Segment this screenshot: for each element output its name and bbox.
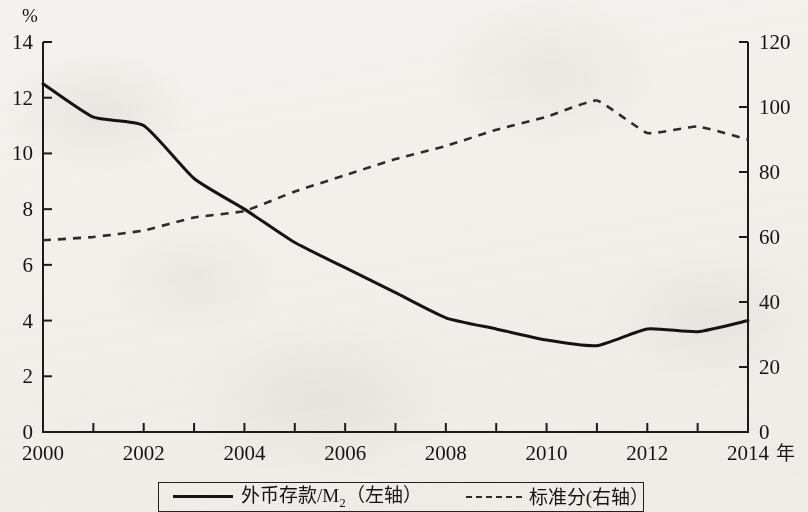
y-right-tick-label-100: 100 <box>759 95 791 119</box>
x-tick-label-2000: 2000 <box>22 441 64 465</box>
legend-entry-foreign-currency-deposits: 外币存款/M2（左轴） <box>173 486 422 509</box>
y-right-tick-label-80: 80 <box>759 160 780 184</box>
y-left-axis-unit-label: % <box>22 5 38 26</box>
y-left-tick-label-2: 2 <box>23 364 34 388</box>
x-tick-label-2012: 2012 <box>626 441 668 465</box>
chart-legend: 外币存款/M2（左轴） 标准分(右轴） <box>158 482 644 512</box>
y-right-tick-label-120: 120 <box>759 30 791 54</box>
axis-frame <box>43 42 748 432</box>
y-left-tick-label-6: 6 <box>23 253 34 277</box>
dual-axis-line-chart: 0246810121402040608010012020002002200420… <box>0 0 808 512</box>
y-left-tick-label-8: 8 <box>23 197 34 221</box>
y-right-tick-label-40: 40 <box>759 290 780 314</box>
legend-entry-standard-score: 标准分(右轴） <box>466 488 649 507</box>
y-left-tick-label-10: 10 <box>12 141 33 165</box>
x-tick-label-2006: 2006 <box>324 441 366 465</box>
legend-label-foreign-currency-deposits: 外币存款/M2（左轴） <box>241 486 422 509</box>
y-right-tick-label-20: 20 <box>759 355 780 379</box>
x-tick-label-2008: 2008 <box>425 441 467 465</box>
solid-line-swatch-icon <box>173 495 233 498</box>
legend-label-tail-1: （左轴） <box>346 485 422 506</box>
dashed-line-swatch-icon <box>466 496 522 498</box>
x-tick-label-2004: 2004 <box>223 441 266 465</box>
y-right-tick-label-60: 60 <box>759 225 780 249</box>
series-line-standard-score <box>43 100 748 240</box>
y-left-tick-label-4: 4 <box>23 309 34 333</box>
chart-canvas: 0246810121402040608010012020002002200420… <box>0 0 808 512</box>
legend-label-main-1: 外币存款/M <box>241 485 339 506</box>
x-tick-label-2014: 2014 <box>727 441 770 465</box>
y-left-tick-label-14: 14 <box>12 30 34 54</box>
x-tick-label-2002: 2002 <box>123 441 165 465</box>
x-tick-label-2010: 2010 <box>526 441 568 465</box>
y-left-tick-label-12: 12 <box>12 86 33 110</box>
series-line-foreign-currency-deposits <box>43 84 748 346</box>
legend-label-standard-score: 标准分(右轴） <box>529 488 649 507</box>
x-axis-unit-label: 年 <box>776 443 795 464</box>
